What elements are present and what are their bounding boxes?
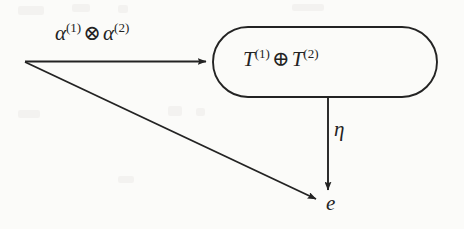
- process-box-label: T(1)⊕T(2): [243, 47, 319, 70]
- edge-label-alpha: α(1)⊗α(2): [55, 21, 129, 44]
- edge-diagonal-line: [25, 62, 316, 199]
- terminal-node-label: e: [326, 193, 335, 214]
- t-first-symbol: T: [243, 47, 255, 71]
- diagram-canvas: α(1)⊗α(2) T(1)⊕T(2) η e: [0, 0, 464, 229]
- t-second-symbol: T: [292, 47, 304, 71]
- alpha-first-symbol: α: [55, 21, 66, 45]
- tensor-product-icon: ⊗: [81, 21, 103, 45]
- edge-label-eta: η: [334, 119, 344, 140]
- direct-sum-icon: ⊕: [270, 47, 292, 71]
- t-first-superscript: (1): [255, 46, 270, 61]
- t-second-superscript: (2): [303, 46, 318, 61]
- alpha-second-symbol: α: [103, 21, 114, 45]
- alpha-first-superscript: (1): [66, 20, 81, 35]
- alpha-second-superscript: (2): [114, 20, 129, 35]
